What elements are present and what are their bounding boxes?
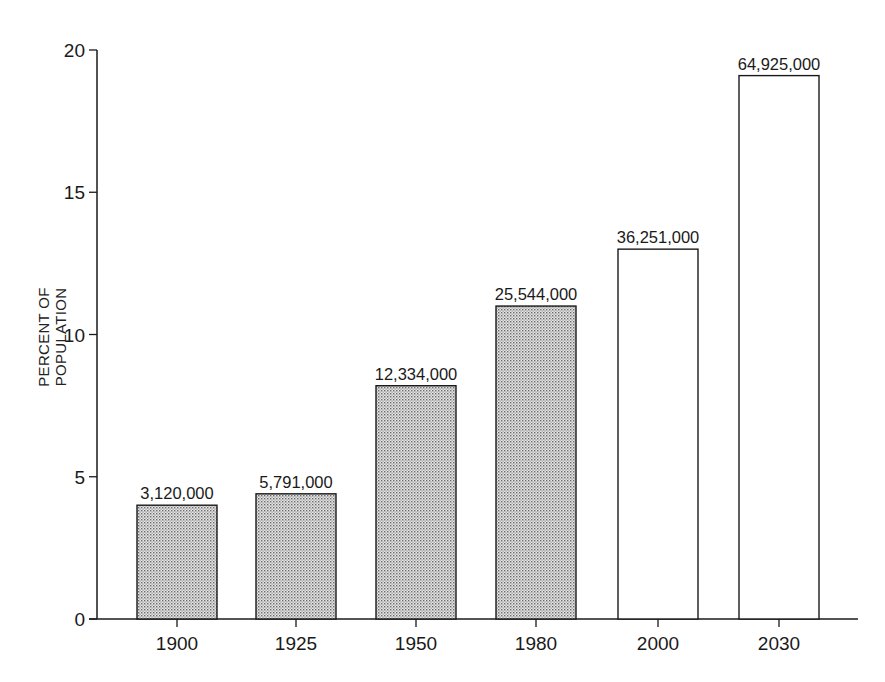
x-tick-label: 2000 [637, 633, 679, 654]
bar-value-label: 36,251,000 [617, 228, 700, 246]
y-tick-label: 0 [74, 609, 85, 630]
bar-2030 [739, 76, 819, 619]
y-tick-label: 20 [64, 40, 85, 61]
bar-value-label: 12,334,000 [375, 365, 458, 383]
y-tick-label: 15 [64, 182, 85, 203]
bar-1980 [496, 306, 576, 619]
y-axis-label: PERCENT OF POPULATION [35, 237, 69, 437]
bar-1900 [137, 505, 217, 619]
bar-value-label: 64,925,000 [738, 55, 821, 73]
x-tick-label: 1950 [395, 633, 437, 654]
x-tick-label: 1925 [275, 633, 317, 654]
plot-area: 05101520190019251950198020002030 3,120,0… [0, 0, 885, 682]
y-tick-label: 5 [74, 467, 85, 488]
bars: 3,120,0005,791,00012,334,00025,544,00036… [137, 55, 820, 619]
x-tick-label: 2030 [758, 633, 800, 654]
bar-1925 [256, 494, 336, 619]
x-tick-label: 1900 [156, 633, 198, 654]
chart: PERCENT OF POPULATION 051015201900192519… [0, 0, 885, 682]
bar-2000 [618, 249, 698, 619]
bar-1950 [376, 386, 456, 619]
bar-value-label: 3,120,000 [140, 484, 213, 502]
bar-value-label: 25,544,000 [495, 285, 578, 303]
bar-value-label: 5,791,000 [259, 473, 332, 491]
x-tick-label: 1980 [515, 633, 557, 654]
